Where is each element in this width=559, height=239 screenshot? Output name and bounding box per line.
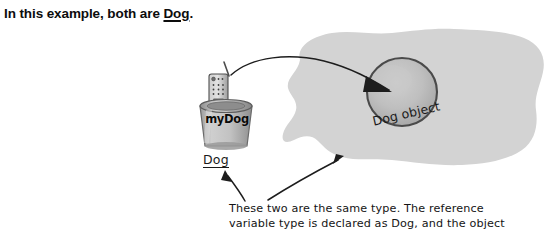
callout-arrow-left (221, 170, 245, 201)
variable-name-label: myDog (204, 112, 250, 126)
annotation-caption-line2: variable type is declared as Dog, and th… (229, 216, 505, 231)
declared-type-label: Dog (203, 152, 229, 167)
annotation-caption: These two are the same type. The referen… (229, 201, 505, 231)
figure-canvas: In this example, both are Dog. (0, 0, 559, 239)
annotation-caption-line1: These two are the same type. The referen… (229, 201, 505, 216)
callout-arrow-right (268, 154, 344, 200)
declared-type-text: Dog (203, 152, 229, 168)
